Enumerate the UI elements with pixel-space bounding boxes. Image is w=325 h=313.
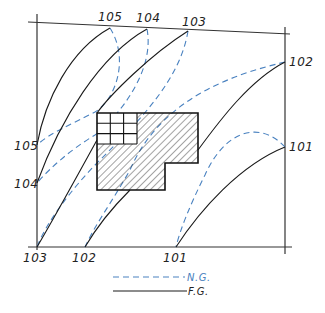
building-footprint (97, 113, 198, 190)
label-bottom-103: 103 (23, 251, 47, 265)
label-top-105: 105 (98, 10, 122, 24)
label-right-102: 102 (289, 55, 313, 69)
grading-plan-diagram: 105 104 103 102 101 105 104 103 102 101 … (0, 0, 325, 313)
label-left-105: 105 (14, 139, 38, 153)
label-bottom-102: 102 (72, 251, 96, 265)
label-bottom-101: 101 (163, 251, 187, 265)
legend: N.G. F.G. (113, 272, 211, 297)
label-top-104: 104 (136, 11, 160, 25)
legend-finished-grade-label: F.G. (188, 286, 209, 297)
label-right-101: 101 (289, 140, 313, 154)
legend-natural-grade-label: N.G. (187, 272, 211, 283)
label-top-103: 103 (182, 15, 206, 29)
label-left-104: 104 (14, 177, 38, 191)
fg-contour-103-b (37, 140, 97, 247)
fg-contour-102-b (85, 190, 130, 247)
